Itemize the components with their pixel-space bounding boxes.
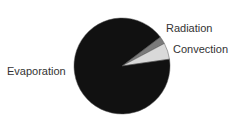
pie-slice-evaporation	[74, 18, 170, 114]
pie-chart: Radiation Convection Evaporation	[0, 0, 231, 125]
label-evaporation: Evaporation	[7, 65, 66, 77]
label-convection: Convection	[173, 43, 228, 55]
label-radiation: Radiation	[166, 22, 212, 34]
